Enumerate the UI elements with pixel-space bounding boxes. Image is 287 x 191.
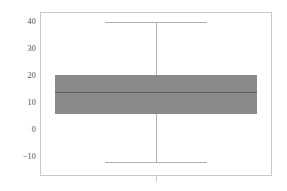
whisker-cap-lower [105, 162, 207, 163]
box-iqr-rect [55, 75, 257, 114]
whisker-cap-upper [105, 22, 207, 23]
median-line [55, 92, 257, 93]
boxplot-figure: 40 30 20 10 0 −10 [0, 0, 287, 191]
boxplot-series-1 [0, 0, 287, 191]
x-tick-mark [156, 176, 157, 182]
